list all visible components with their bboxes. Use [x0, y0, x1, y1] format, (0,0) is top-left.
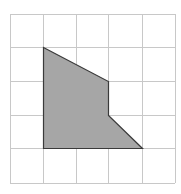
shaded-polygon — [44, 48, 143, 149]
grid-diagram — [0, 0, 181, 194]
